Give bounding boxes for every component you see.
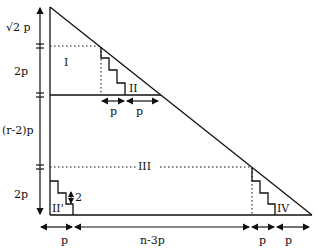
label-bottom-n-3p: n-3p xyxy=(140,234,165,247)
staircase-II xyxy=(101,47,125,95)
region-label-IV: IV xyxy=(277,202,290,215)
upper-dotted-guides xyxy=(50,46,101,95)
diagram-canvas: √2 p 2p (r-2)p 2p I II III IV II' 2 p p … xyxy=(0,0,318,252)
region-label-I: I xyxy=(64,56,68,69)
label-bottom-p-1: p xyxy=(61,234,68,247)
label-upper-p-2: p xyxy=(136,105,143,118)
main-triangle xyxy=(50,7,312,215)
staircase-IV xyxy=(252,168,275,215)
label-sqrt2-p: √2 p xyxy=(6,21,31,34)
label-upper-p-1: p xyxy=(110,105,117,118)
label-r-minus-2-p: (r-2)p xyxy=(2,124,34,137)
label-2p-upper: 2p xyxy=(14,65,28,78)
region-label-II: II xyxy=(129,82,138,95)
label-2p-lower: 2p xyxy=(14,188,28,201)
label-step-height: 2 xyxy=(75,191,82,204)
label-bottom-p-2: p xyxy=(259,234,266,247)
label-bottom-p-3: p xyxy=(285,234,292,247)
left-dimension-axis xyxy=(36,8,44,214)
region-label-II-prime: II' xyxy=(52,202,64,215)
region-label-III: III xyxy=(138,160,151,173)
triangle-staircase-diagram: √2 p 2p (r-2)p 2p I II III IV II' 2 p p … xyxy=(0,0,318,252)
